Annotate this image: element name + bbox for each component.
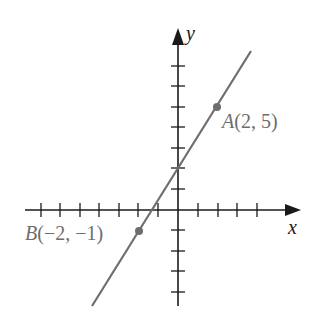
point-a (213, 103, 221, 111)
point-a-coords: (2, 5) (234, 110, 277, 133)
x-axis-arrow-icon (285, 204, 301, 216)
x-axis-label: x (287, 216, 297, 238)
point-b (135, 227, 143, 235)
coordinate-plane: y x A(2, 5) B(−2, −1) (0, 0, 315, 318)
line-AB (92, 51, 251, 306)
point-a-letter: A (220, 110, 235, 132)
y-axis-label: y (184, 22, 195, 45)
point-b-coords: (−2, −1) (37, 222, 103, 245)
point-a-label: A(2, 5) (220, 110, 278, 133)
point-b-label: B(−2, −1) (25, 222, 103, 245)
y-axis-arrow-icon (172, 28, 184, 45)
x-axis (25, 203, 301, 217)
point-b-letter: B (25, 222, 37, 244)
